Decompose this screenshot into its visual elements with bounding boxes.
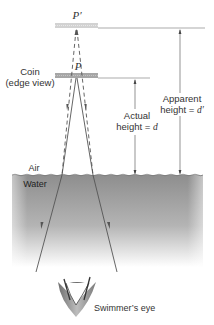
coin-label-line2: (edge view) [0,77,60,88]
actual-height-text: height = [116,121,153,132]
actual-variable: d [153,122,158,132]
image-arrowhead-icon [75,29,79,35]
coin [55,73,150,78]
water-label: Water [20,179,50,190]
apparent-height-text: height = [160,104,197,115]
air-label: Air [24,163,44,174]
object-point-label: P [71,61,85,72]
coin-label: Coin (edge view) [0,66,60,88]
swimmer-eye-label: Swimmer’s eye [94,303,164,314]
coin-label-line1: Coin [0,66,60,77]
actual-label-line2: height = d [112,121,162,133]
apparent-height-label: Apparent height = d′ [154,93,210,116]
apparent-label-line1: Apparent [154,93,210,104]
image-coin [55,23,205,28]
apparent-label-line2: height = d′ [154,104,210,116]
image-point-label: P′ [69,10,85,21]
eye-illustration [58,277,96,317]
apparent-variable: d′ [197,105,204,115]
virtual-rays [62,30,93,175]
